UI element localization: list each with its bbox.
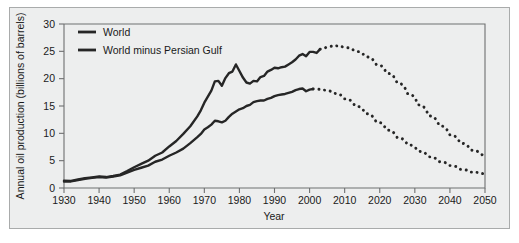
x-tick-label: 2030 [403, 194, 427, 206]
legend-label-world-minus-persian-gulf: World minus Persian Gulf [103, 44, 222, 56]
y-tick-label: 0 [49, 182, 55, 194]
y-tick-label: 30 [43, 18, 55, 30]
x-tick-label: 1970 [193, 194, 217, 206]
x-tick-label: 2050 [473, 194, 497, 206]
figure-container: 051015202530 193019401950196019701980199… [0, 0, 519, 243]
x-tick-label: 1930 [52, 194, 76, 206]
x-tick-label: 2010 [333, 194, 357, 206]
y-tick-label: 5 [49, 154, 55, 166]
y-tick-label: 10 [43, 127, 55, 139]
y-axis-ticks: 051015202530 [43, 18, 64, 194]
x-tick-label: 2040 [438, 194, 462, 206]
x-tick-label: 1950 [122, 194, 146, 206]
series-historical-0 [64, 49, 320, 181]
x-axis-title: Year [263, 210, 285, 222]
oil-production-line-chart: 051015202530 193019401950196019701980199… [0, 0, 519, 243]
y-tick-label: 15 [43, 100, 55, 112]
y-axis-title: Annual oil production (billions of barre… [14, 13, 26, 200]
y-tick-label: 20 [43, 72, 55, 84]
x-tick-label: 1940 [87, 194, 111, 206]
series-historical-1 [64, 89, 313, 182]
x-tick-label: 2020 [368, 194, 392, 206]
y-tick-label: 25 [43, 45, 55, 57]
series-projected-0 [320, 46, 485, 158]
x-tick-label: 1990 [263, 194, 287, 206]
legend-label-world: World [103, 26, 130, 38]
data-series-group [64, 46, 485, 182]
x-tick-label: 1960 [158, 194, 182, 206]
x-tick-label: 1980 [228, 194, 252, 206]
series-projected-1 [313, 89, 485, 174]
x-tick-label: 2000 [298, 194, 322, 206]
legend: World World minus Persian Gulf [78, 26, 222, 56]
x-axis-ticks: 1930194019501960197019801990200020102020… [52, 188, 497, 206]
